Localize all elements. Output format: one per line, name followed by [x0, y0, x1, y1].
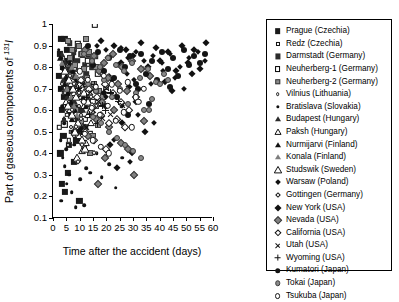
legend-marker-icon	[272, 64, 283, 75]
legend-item[interactable]: California (USA)	[272, 227, 388, 240]
legend-label: Tsukuba (Japan)	[286, 292, 347, 300]
legend-label: California (USA)	[286, 229, 345, 237]
x-axis-tick	[93, 217, 94, 221]
legend-item[interactable]: Neuherberg-2 (Germany)	[272, 75, 388, 88]
legend-marker-icon	[272, 227, 283, 238]
x-axis-tick	[160, 217, 161, 221]
legend-marker-icon	[272, 190, 283, 201]
y-axis-tick-label: 0.6	[34, 105, 47, 115]
legend-label: Tokai (Japan)	[286, 279, 335, 287]
x-axis-tick-label: 35	[141, 223, 152, 233]
legend-marker-icon	[272, 164, 283, 175]
legend-item[interactable]: Tokai (Japan)	[272, 277, 388, 290]
legend-marker-icon	[272, 38, 283, 49]
y-axis-tick-label: 0.8	[34, 62, 47, 72]
legend-item[interactable]: Neuherberg-1 (Germany)	[272, 63, 388, 76]
legend-label: Darmstadt (Germany)	[286, 52, 365, 60]
legend-item[interactable]: Bratislava (Slovakia)	[272, 101, 388, 114]
x-axis-tick	[133, 217, 134, 221]
x-axis-tick-label: 60	[208, 223, 219, 233]
legend-item[interactable]: Darmstadt (Germany)	[272, 50, 388, 63]
legend-marker-icon	[272, 278, 283, 289]
legend-item[interactable]: Nevada (USA)	[272, 214, 388, 227]
legend-marker-icon	[272, 202, 283, 213]
y-axis-tick	[49, 67, 53, 68]
legend-item[interactable]: New York (USA)	[272, 201, 388, 214]
y-axis-tick	[49, 153, 53, 154]
legend-marker-icon	[272, 177, 283, 188]
legend-item[interactable]: Vilnius (Lithuania)	[272, 88, 388, 101]
y-axis-isotope: 131I	[3, 39, 15, 54]
legend-label: Warsaw (Poland)	[286, 178, 349, 186]
legend-item[interactable]: Redz (Czechia)	[272, 38, 388, 51]
legend-item[interactable]: Konala (Finland)	[272, 151, 388, 164]
plot-area: 0.10.20.30.40.50.60.70.80.91051015202530…	[52, 24, 212, 218]
legend-label: Utah (USA)	[286, 241, 328, 249]
legend-item[interactable]: Paksh (Hungary)	[272, 126, 388, 139]
legend-item[interactable]: Budapest (Hungary)	[272, 113, 388, 126]
y-axis-tick-label: 0.9	[34, 41, 47, 51]
legend-label: Nurmijarvi (Finland)	[286, 141, 357, 149]
y-axis-tick-label: 0.7	[34, 84, 47, 94]
legend-item[interactable]: Nurmijarvi (Finland)	[272, 138, 388, 151]
y-axis-tick	[49, 132, 53, 133]
legend-item[interactable]: Utah (USA)	[272, 239, 388, 252]
legend-item[interactable]: Warsaw (Poland)	[272, 176, 388, 189]
y-axis-tick-label: 1	[42, 19, 47, 29]
x-axis-tick	[80, 217, 81, 221]
x-axis-tick-label: 15	[88, 223, 99, 233]
legend-item[interactable]: Prague (Czechia)	[272, 25, 388, 38]
legend-label: Paksh (Hungary)	[286, 128, 347, 136]
legend-label: New York (USA)	[286, 204, 345, 212]
y-axis-tick-label: 0.4	[34, 149, 47, 159]
x-axis-tick-label: 45	[168, 223, 179, 233]
y-axis-tick-label: 0.1	[34, 213, 47, 223]
legend-marker-icon	[272, 215, 283, 226]
legend-label: Wyoming (USA)	[286, 254, 345, 262]
y-axis-tick	[49, 175, 53, 176]
legend-marker-icon	[272, 114, 283, 125]
legend-label: Kumatori (Japan)	[286, 266, 349, 274]
x-axis-tick	[53, 217, 54, 221]
legend-marker-icon	[272, 26, 283, 37]
legend-label: Bratislava (Slovakia)	[286, 103, 361, 111]
x-axis-tick	[186, 217, 187, 221]
y-axis-tick-label: 0.2	[34, 192, 47, 202]
legend-label: Prague (Czechia)	[286, 27, 350, 35]
y-axis-tick-label: 0.3	[34, 170, 47, 180]
legend-item[interactable]: Gottingen (Germany)	[272, 189, 388, 202]
y-axis-title-text: Part of gaseous components of	[3, 54, 15, 202]
legend-marker-icon	[272, 240, 283, 251]
legend-label: Gottingen (Germany)	[286, 191, 363, 199]
x-axis-tick-label: 20	[101, 223, 112, 233]
legend-item[interactable]: Tsukuba (Japan)	[272, 289, 388, 302]
legend-label: Konala (Finland)	[286, 153, 346, 161]
legend-item[interactable]: Studswik (Sweden)	[272, 164, 388, 177]
x-axis-tick-label: 40	[154, 223, 165, 233]
legend-marker-icon	[272, 89, 283, 100]
legend-marker-icon	[272, 101, 283, 112]
legend-marker-icon	[272, 76, 283, 87]
legend-label: Neuherberg-1 (Germany)	[286, 65, 378, 73]
legend-label: Redz (Czechia)	[286, 40, 342, 48]
y-axis-tick	[49, 110, 53, 111]
legend-label: Budapest (Hungary)	[286, 115, 359, 123]
x-axis-tick	[120, 217, 121, 221]
legend-label: Studswik (Sweden)	[286, 166, 356, 174]
legend-label: Neuherberg-2 (Germany)	[286, 78, 378, 86]
y-axis-title: Part of gaseous components of 131I	[1, 24, 16, 218]
x-axis-tick-label: 30	[128, 223, 139, 233]
x-axis-tick	[173, 217, 174, 221]
legend-item[interactable]: Kumatori (Japan)	[272, 264, 388, 277]
y-axis-tick-label: 0.5	[34, 127, 47, 137]
legend-marker-icon	[272, 290, 283, 301]
legend-item[interactable]: Wyoming (USA)	[272, 252, 388, 265]
legend-label: Vilnius (Lithuania)	[286, 90, 351, 98]
x-axis-tick-label: 25	[114, 223, 125, 233]
x-axis-tick-label: 5	[64, 223, 69, 233]
x-axis-tick	[146, 217, 147, 221]
x-axis-tick-label: 0	[50, 223, 55, 233]
x-axis-tick	[200, 217, 201, 221]
legend-marker-icon	[272, 139, 283, 150]
